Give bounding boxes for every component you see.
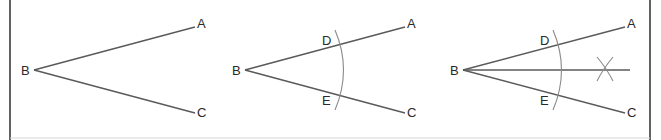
- label-c: C: [197, 105, 206, 120]
- label-e: E: [540, 93, 549, 108]
- label-d: D: [322, 33, 331, 48]
- panel-step-2: B A C D E: [232, 16, 416, 120]
- label-e: E: [322, 93, 331, 108]
- label-b: B: [232, 63, 241, 78]
- angle-bisector-diagram: B A C B A C D E B A C D E: [0, 0, 661, 140]
- panel-step-3: B A C D E: [450, 16, 636, 120]
- label-d: D: [540, 33, 549, 48]
- label-b: B: [450, 63, 459, 78]
- label-c: C: [627, 105, 636, 120]
- ray-bc: [34, 70, 195, 113]
- label-a: A: [197, 16, 206, 31]
- panel-step-1: B A C: [21, 16, 206, 120]
- label-c: C: [407, 105, 416, 120]
- ray-ba: [34, 27, 195, 70]
- label-a: A: [627, 16, 636, 31]
- compass-arc-de: [335, 30, 344, 110]
- label-a: A: [407, 16, 416, 31]
- label-b: B: [21, 63, 30, 78]
